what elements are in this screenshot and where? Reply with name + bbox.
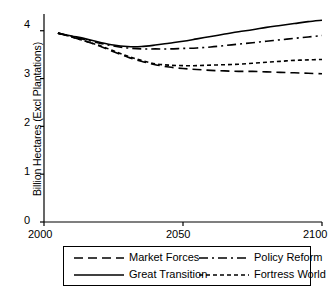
chart-figure: Billion Hectares (Excl Plantations) 4 3 … [0, 0, 334, 292]
legend-label-market-forces: Market Forces [129, 251, 199, 263]
data-curves [58, 20, 322, 74]
legend-label-great-transition: Great Transition [129, 268, 207, 280]
legend-box: Market Forces Policy Reform Great Transi… [63, 246, 311, 286]
legend-label-fortress-world: Fortress World [254, 268, 326, 280]
series-line-market-forces [58, 33, 322, 74]
series-line-fortress-world [58, 33, 322, 66]
legend-label-policy-reform: Policy Reform [254, 251, 322, 263]
axis-ticks [40, 31, 322, 226]
